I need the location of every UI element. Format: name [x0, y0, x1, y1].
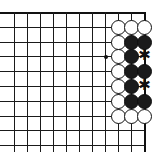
grid-line-vertical [92, 12, 93, 152]
grid-line-horizontal [0, 12, 145, 14]
go-board-diagram: ✱✱ [0, 0, 162, 165]
black-stone [124, 79, 139, 94]
star-point [104, 55, 108, 59]
asterisk-mark-icon: ✱ [138, 49, 151, 62]
white-stone [137, 20, 152, 35]
grid-line-vertical [66, 12, 67, 152]
black-stone [137, 94, 152, 109]
grid-line-vertical [53, 12, 54, 152]
grid-line-vertical [27, 12, 28, 152]
grid-line-vertical [40, 12, 41, 152]
white-stone [137, 109, 152, 124]
grid-line-vertical [79, 12, 80, 152]
grid-line-horizontal [0, 145, 145, 146]
grid-line-vertical [14, 12, 15, 152]
grid-line-horizontal [0, 130, 145, 131]
black-stone [124, 49, 139, 64]
grid-line-vertical [105, 12, 106, 152]
asterisk-mark-icon: ✱ [138, 79, 151, 92]
